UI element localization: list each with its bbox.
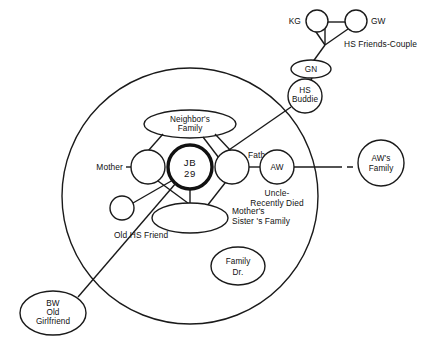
node-bw-label-line3: Girlfriend xyxy=(36,317,71,326)
hs-friends-couple-label: HS Friends-Couple xyxy=(344,39,417,49)
node-family-dr[interactable] xyxy=(211,247,265,285)
node-jb-label-line2: 29 xyxy=(184,168,196,179)
ecomap-page: KG GW HS Friends-Couple GN HS Buddie Nei… xyxy=(0,0,432,347)
node-family-dr-label-line2: Dr. xyxy=(233,268,244,277)
node-gw[interactable] xyxy=(345,10,367,32)
node-mother[interactable] xyxy=(131,150,165,184)
node-kg[interactable] xyxy=(306,10,328,32)
node-neighbors-family-label-line1: Neighbor's xyxy=(170,115,210,124)
node-neighbors-family-label-line2: Family xyxy=(178,124,204,133)
node-msf-label-line2: Sister 's Family xyxy=(232,216,291,226)
node-old-hs-friend[interactable] xyxy=(110,196,134,220)
ecomap-canvas: KG GW HS Friends-Couple GN HS Buddie Nei… xyxy=(0,0,432,347)
node-hs-buddie-label-line1: HS xyxy=(299,86,311,95)
node-aw-label: AW xyxy=(270,163,283,172)
node-mothers-sisters-family[interactable] xyxy=(152,203,228,233)
node-aw-family[interactable] xyxy=(358,140,404,186)
aw-uncle-label-line1: Uncle- xyxy=(265,188,290,198)
node-gn-label: GN xyxy=(305,65,317,74)
node-father[interactable] xyxy=(215,150,249,184)
node-old-hs-friend-label: Old HS Friend xyxy=(114,230,169,240)
node-kg-label: KG xyxy=(289,16,301,26)
node-aw-family-label-line2: Family xyxy=(369,164,395,173)
node-bw-label-line2: Old xyxy=(46,308,59,317)
node-aw-family-label-line1: AW's xyxy=(372,154,391,163)
node-family-dr-label-line1: Family xyxy=(226,257,252,266)
node-bw-label-line1: BW xyxy=(46,299,60,308)
node-gw-label: GW xyxy=(371,16,386,26)
node-jb-label-line1: JB xyxy=(184,157,196,168)
node-msf-label-line1: Mother's xyxy=(232,206,265,216)
node-mother-label: Mother xyxy=(96,162,123,172)
node-hs-buddie-label-line2: Buddie xyxy=(292,95,318,104)
